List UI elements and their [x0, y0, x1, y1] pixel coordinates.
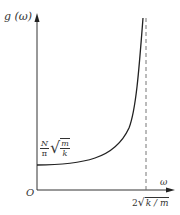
x-axis-label: ω: [160, 178, 167, 187]
fraction-n-over-pi: N π: [40, 139, 49, 158]
y-axis-arrow-icon: [35, 13, 40, 22]
fraction-numerator: N: [40, 139, 49, 149]
radicand-denominator: k: [60, 149, 70, 158]
sqrt-icon: √: [138, 196, 145, 209]
plot-axes-and-curve: [0, 0, 180, 215]
x-axis-arrow-icon: [166, 188, 175, 193]
fraction-denominator: π: [40, 149, 49, 158]
origin-label: O: [26, 188, 34, 198]
sqrt-content: m k: [60, 138, 70, 158]
density-of-states-figure: g (ω) ω O N π √ m k 2√k / m: [0, 0, 180, 215]
sqrt-icon: √: [50, 139, 60, 157]
x-tick-label-cutoff: 2√k / m: [132, 196, 169, 209]
y-axis-label: g (ω): [4, 11, 32, 22]
radicand-numerator: m: [60, 139, 70, 149]
y-intercept-label: N π √ m k: [40, 138, 70, 158]
tick-radicand: k / m: [145, 197, 169, 208]
